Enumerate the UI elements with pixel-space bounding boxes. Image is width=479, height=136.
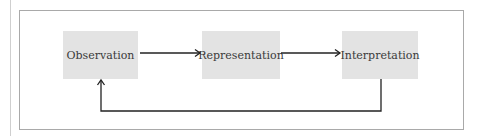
- connector-lines: [0, 0, 479, 136]
- feedback-arrow-interpretation-to-observation: [101, 79, 381, 111]
